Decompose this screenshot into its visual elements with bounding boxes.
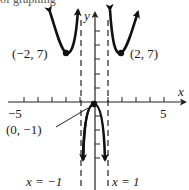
x-tick-label-5: 5 xyxy=(160,106,167,121)
y-axis-ticks xyxy=(95,31,100,158)
y-axis-label: y xyxy=(82,8,90,23)
curve-left-branch xyxy=(50,10,78,53)
point-right-vertex xyxy=(118,50,124,56)
x-tick-label-neg5: −5 xyxy=(8,106,22,121)
x-axis-label: x xyxy=(177,84,184,99)
point-left-vertex xyxy=(63,50,69,56)
label-point-middle: (0, −1) xyxy=(6,122,42,137)
leader-line xyxy=(56,108,88,127)
rational-function-graph: of graphing y x −5 5 xyxy=(0,0,189,190)
label-asymptote-right: x = 1 xyxy=(111,174,140,189)
curve-middle-branch xyxy=(83,104,105,160)
label-point-right: (2, 7) xyxy=(130,46,158,61)
label-point-left: (−2, 7) xyxy=(12,46,48,61)
point-middle-vertex xyxy=(91,101,97,107)
label-asymptote-left: x = −1 xyxy=(25,174,62,189)
cut-off-caption: of graphing xyxy=(0,0,56,6)
